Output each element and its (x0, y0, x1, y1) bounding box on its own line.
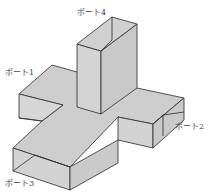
port1-label: ポート1 (5, 69, 34, 77)
waveguide-junction-diagram (0, 0, 214, 196)
port3-label: ポート3 (5, 180, 34, 188)
port4-front-face (77, 44, 101, 114)
port4-label: ポート4 (77, 9, 106, 17)
port2-label: ポート2 (175, 123, 204, 131)
